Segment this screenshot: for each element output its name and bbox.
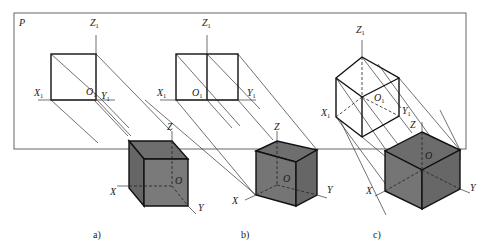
- panel-c-x-label: X: [365, 185, 373, 196]
- panel-b-o-label: O: [283, 173, 290, 184]
- axonometric-projection-diagram: P Z1 X1 O1 Y1 Z: [0, 0, 483, 249]
- panel-c-z-label: Z: [410, 119, 416, 130]
- panel-b: Z1 X1 O1 Y1 Z X Y O b): [145, 17, 334, 241]
- panel-a-z1-label: Z1: [90, 17, 99, 29]
- panel-c-cube: [375, 122, 470, 209]
- plane-label: P: [18, 17, 25, 28]
- panel-c-o1-label: O1: [374, 92, 384, 104]
- panel-b-z-label: Z: [274, 121, 280, 132]
- panel-c-x1-label: X1: [320, 107, 330, 119]
- panel-c-z1-label: Z1: [356, 24, 365, 36]
- panel-a-y1-label: Y1: [101, 90, 110, 102]
- panel-b-o1-label: O1: [192, 87, 202, 99]
- panel-a-cube: [117, 131, 196, 214]
- panel-b-cube: [245, 131, 327, 206]
- panel-c-caption: c): [373, 229, 381, 241]
- panel-a-x1-label: X1: [33, 87, 43, 99]
- panel-a-projector-lines: [51, 54, 171, 143]
- panel-b-z1-label: Z1: [202, 17, 211, 29]
- panel-c: Z1 X1 O1 Y1 Z X Y O c): [320, 24, 477, 241]
- panel-c-y1-label: Y1: [402, 105, 411, 117]
- panel-a-o-label: O: [175, 175, 182, 186]
- panel-b-caption: b): [241, 229, 249, 241]
- panel-c-projected-cube: [336, 57, 399, 137]
- panel-a-caption: a): [93, 229, 101, 241]
- panel-b-y1-label: Y1: [247, 87, 256, 99]
- panel-b-y-label: Y: [327, 184, 334, 195]
- panel-a-x-label: X: [109, 186, 117, 197]
- panel-c-y-label: Y: [470, 182, 477, 193]
- panel-b-x1-label: X1: [156, 87, 166, 99]
- panel-c-o-label: O: [425, 150, 432, 161]
- panel-a-z-label: Z: [167, 121, 173, 132]
- panel-a-o1-label: O1: [86, 86, 96, 98]
- panel-a-y-label: Y: [198, 202, 205, 213]
- panel-b-x-label: X: [231, 195, 239, 206]
